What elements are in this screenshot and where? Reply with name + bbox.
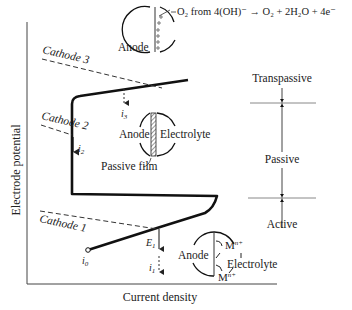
e1-label: E1 bbox=[145, 237, 156, 250]
i3-label: i3 bbox=[121, 108, 128, 121]
active-anode-label: Anode bbox=[178, 249, 209, 261]
passive-electrolyte-label: Electrolyte bbox=[160, 128, 210, 141]
i3-marker: i3 bbox=[121, 89, 128, 121]
cathode-3-label: Cathode 3 bbox=[42, 43, 91, 65]
passive-film-label: Passive film bbox=[101, 160, 158, 172]
passive-inset: Anode Electrolyte Passive film bbox=[101, 113, 210, 172]
passive-film-layer bbox=[151, 113, 156, 156]
cathode-2: Cathode 2 bbox=[41, 109, 90, 135]
active-inset: Anode Mn+ Electrolyte Mn+ bbox=[178, 232, 277, 283]
e1-i1-marker: E1 i1 i0 bbox=[82, 229, 159, 275]
cathode-1-label: Cathode 1 bbox=[39, 212, 88, 234]
metal-ion-top-label: Mn+ bbox=[225, 239, 243, 251]
transpassive-inset: Anode O₂ from 4(OH)⁻ → O₂ + 2H₂O + 4e⁻ bbox=[118, 6, 336, 53]
active-region-label: Active bbox=[267, 218, 298, 230]
i0-start-point bbox=[86, 248, 91, 253]
x-axis-label: Current density bbox=[123, 290, 197, 304]
oxygen-bubbles-icon bbox=[157, 16, 162, 49]
metal-ion-bottom-label: Mn+ bbox=[218, 271, 236, 283]
transpassive-region-label: Transpassive bbox=[252, 72, 312, 85]
i2-marker: i2 bbox=[73, 137, 85, 156]
passive-region-label: Passive bbox=[265, 153, 300, 165]
y-axis-label: Electrode potential bbox=[9, 124, 23, 216]
i0-label: i0 bbox=[82, 255, 89, 268]
i1-label: i1 bbox=[149, 262, 155, 275]
oxygen-reaction-label: O₂ from 4(OH)⁻ → O₂ + 2H₂O + 4e⁻ bbox=[177, 6, 336, 18]
cathode-2-label: Cathode 2 bbox=[41, 109, 90, 131]
ion-dissolution-arrow-icon bbox=[216, 241, 222, 246]
cathode-1: Cathode 1 bbox=[39, 211, 157, 234]
active-electrolyte-label: Electrolyte bbox=[227, 258, 277, 271]
passive-anode-label: Anode bbox=[119, 128, 150, 140]
i2-label: i2 bbox=[78, 143, 85, 156]
transpassive-anode-label: Anode bbox=[118, 41, 149, 53]
polarization-diagram: Electrode potential Current density Cath… bbox=[0, 0, 352, 310]
region-scale: Transpassive Passive Active bbox=[248, 72, 316, 230]
